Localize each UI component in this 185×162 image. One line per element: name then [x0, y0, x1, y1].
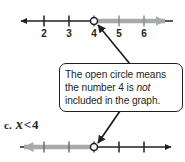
inequality-operator: <	[23, 117, 32, 132]
inequality-variable: x	[12, 117, 23, 132]
callout-emphasis-not: not	[136, 82, 150, 93]
callout-line-2-prefix: the number 4 is	[65, 82, 136, 93]
callout-line-3: included in the graph.	[65, 95, 160, 106]
callout-text: The open circle means the number 4 is no…	[65, 68, 181, 108]
number-line-figure: 2 3 4 5 6 The open circle means the numb…	[0, 0, 185, 162]
callout-line-1: The open circle means	[65, 69, 166, 80]
callout-box: The open circle means the number 4 is no…	[59, 63, 183, 112]
number-line-top-group	[21, 16, 173, 27]
number-line-bottom-group	[20, 142, 171, 153]
callout-pointer-down-icon	[98, 111, 120, 143]
tick-label-5: 5	[111, 28, 127, 39]
tick-label-2: 2	[36, 28, 52, 39]
part-label: c.x<4	[4, 117, 39, 133]
tick-label-6: 6	[136, 28, 152, 39]
tick-label-4: 4	[86, 28, 102, 39]
part-letter: c.	[4, 119, 12, 131]
inequality-value: 4	[32, 117, 39, 132]
open-circle-top	[91, 18, 98, 25]
open-circle-bottom	[91, 144, 98, 151]
tick-label-3: 3	[61, 28, 77, 39]
